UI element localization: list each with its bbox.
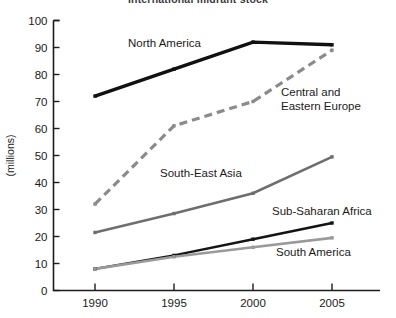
- series-labels: North AmericaCentral andEastern EuropeSo…: [128, 37, 372, 258]
- y-tick-label: 20: [35, 231, 48, 243]
- x-tick-label: 1995: [161, 297, 187, 309]
- x-axis-ticks: 1990199520002005: [82, 284, 345, 309]
- y-tick-label: 40: [35, 177, 48, 189]
- data-point-marker: [172, 67, 175, 70]
- y-tick-label: 60: [35, 123, 48, 135]
- data-point-marker: [93, 202, 96, 205]
- y-tick-label: 70: [35, 96, 48, 108]
- data-point-marker: [93, 94, 96, 97]
- series-line-1: [95, 50, 332, 204]
- data-point-marker: [172, 124, 175, 127]
- series-label-1: Central and: [281, 86, 340, 98]
- x-tick-label: 2005: [319, 297, 345, 309]
- series-label-3: Sub-Saharan Africa: [272, 205, 372, 217]
- y-axis-ticks: 0102030405060708090100: [28, 15, 59, 297]
- y-axis-title: (millions): [4, 135, 16, 177]
- chart-data-markers: [93, 40, 333, 270]
- data-point-marker: [93, 231, 96, 234]
- y-tick-label: 80: [35, 69, 48, 81]
- y-tick-label: 10: [35, 258, 48, 270]
- data-point-marker: [251, 40, 254, 43]
- data-point-marker: [251, 238, 254, 241]
- data-point-marker: [330, 49, 333, 52]
- y-tick-label: 50: [35, 150, 48, 162]
- y-tick-label: 90: [35, 42, 48, 54]
- data-point-marker: [93, 267, 96, 270]
- series-label-2: South-East Asia: [160, 167, 242, 179]
- chart-series-lines: [95, 42, 332, 269]
- x-tick-label: 2000: [240, 297, 266, 309]
- data-point-marker: [330, 221, 333, 224]
- data-point-marker: [172, 255, 175, 258]
- data-point-marker: [172, 212, 175, 215]
- data-point-marker: [251, 192, 254, 195]
- y-axis-title-text: (millions): [4, 135, 16, 177]
- data-point-marker: [330, 236, 333, 239]
- series-label-1: Eastern Europe: [281, 100, 361, 112]
- data-point-marker: [330, 155, 333, 158]
- series-label-0: North America: [128, 37, 201, 49]
- chart-container: International migrant stock 010203040506…: [0, 0, 396, 318]
- series-label-4: South America: [276, 246, 351, 258]
- y-tick-label: 0: [41, 285, 47, 297]
- y-tick-label: 100: [28, 15, 47, 27]
- data-point-marker: [330, 43, 333, 46]
- data-point-marker: [251, 100, 254, 103]
- x-tick-label: 1990: [82, 297, 108, 309]
- data-point-marker: [251, 246, 254, 249]
- y-tick-label: 30: [35, 204, 48, 216]
- line-chart-plot: 0102030405060708090100 1990199520002005 …: [0, 0, 396, 318]
